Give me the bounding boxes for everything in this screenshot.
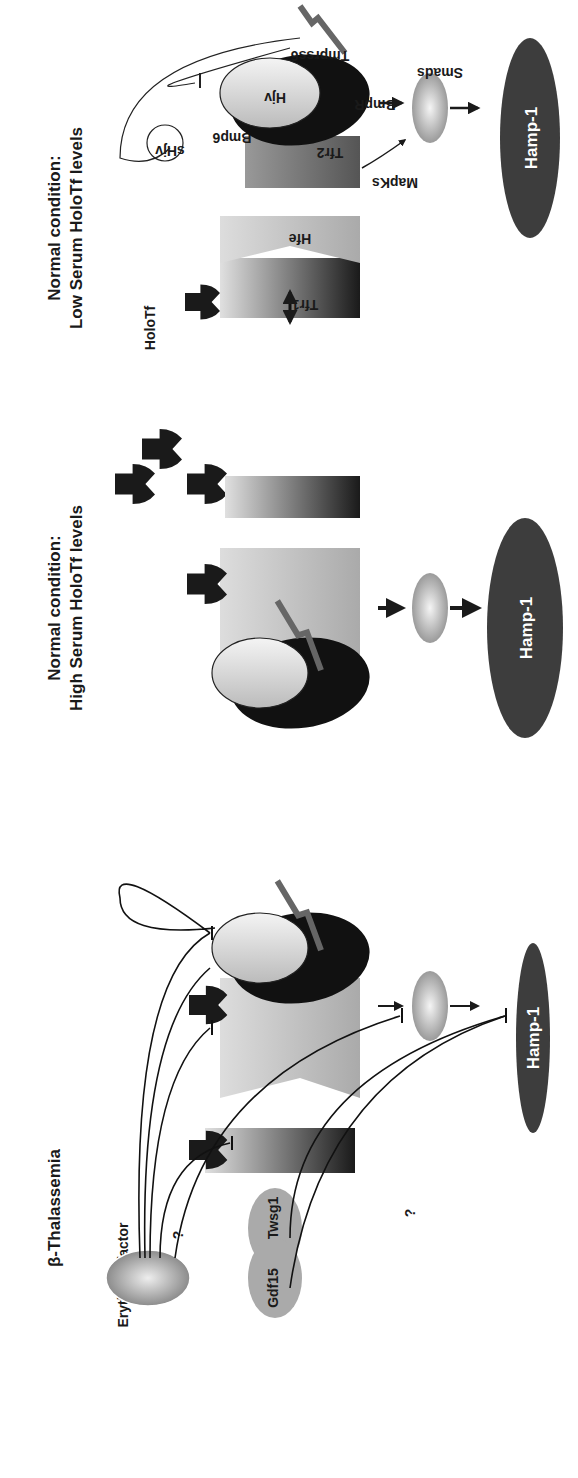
label-twsg1: Twsg1 [265, 1197, 281, 1240]
label-holotf: HoloTf [142, 306, 158, 351]
smads-node [412, 73, 448, 143]
panel-high-title-1: Normal condition: [45, 535, 64, 680]
free-holotf-icon [142, 429, 182, 469]
hjv-protein-high [212, 638, 308, 708]
label-smads: Smads [417, 65, 463, 81]
smads-node-thal [412, 971, 448, 1041]
label-hamp-thal: Hamp-1 [524, 1007, 543, 1069]
erythroid-factor-node [106, 1250, 190, 1306]
panel-low-title-2: Low Serum HoloTf levels [67, 127, 86, 329]
label-hamp-high: Hamp-1 [517, 597, 536, 659]
label-hjv: Hjv [264, 90, 286, 106]
smads-node-high [412, 573, 448, 643]
bound-holotf-icon [187, 464, 227, 504]
label-hamp-low: Hamp-1 [522, 107, 541, 169]
panel-high-holotf: Normal condition: High Serum HoloTf leve… [45, 429, 563, 738]
tfr1-receptor-thal [205, 1128, 355, 1173]
tfr1-receptor-high [225, 476, 360, 518]
label-tmprss6: Tmprss6 [291, 48, 350, 64]
panel-high-title-2: High Serum HoloTf levels [67, 505, 86, 711]
label-tfr2: Tfr2 [317, 145, 344, 161]
panel-thal-title: β-Thalassemia [45, 1148, 64, 1267]
label-hfe: Hfe [289, 231, 312, 247]
hjv-protein-thal [212, 913, 308, 983]
panel-low-holotf: Normal condition: Low Serum HoloTf level… [45, 6, 560, 350]
panel-beta-thalassemia: β-Thalassemia Erythroid factor ? Twsg1 G… [45, 881, 550, 1328]
holotf-icon [185, 285, 220, 320]
panel-low-title-1: Normal condition: [45, 155, 64, 300]
free-holotf-icon-2 [115, 464, 155, 504]
hepcidin-regulation-diagram: Normal condition: Low Serum HoloTf level… [0, 0, 578, 1478]
rotated-figure: Normal condition: Low Serum HoloTf level… [45, 6, 563, 1328]
mapks-arrow [362, 140, 405, 168]
label-bmpr: BmpR [354, 97, 395, 113]
label-mapks: MapKs [372, 175, 418, 191]
label-tfr1: Tfr1 [292, 297, 319, 313]
label-gdf15: Gdf15 [265, 1268, 281, 1308]
tmprss6-bolt [300, 6, 345, 53]
question-mark-2: ? [402, 1209, 418, 1218]
